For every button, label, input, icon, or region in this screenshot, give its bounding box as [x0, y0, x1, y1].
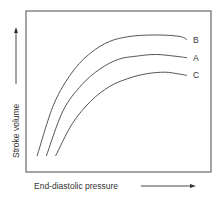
series-label-c: C [193, 70, 199, 80]
curves-group [37, 35, 187, 156]
series-labels-group: BAC [193, 35, 199, 80]
plot-frame [26, 11, 211, 172]
y-axis-arrow-head [14, 27, 18, 33]
y-axis-label: Stroke volume [11, 103, 21, 158]
x-axis-arrow-head [190, 184, 196, 188]
series-label-a: A [193, 53, 199, 63]
chart: BAC Stroke volume End-diastolic pressure [0, 0, 221, 200]
curve-b [37, 35, 187, 156]
x-axis-label: End-diastolic pressure [34, 181, 118, 191]
curve-c [56, 72, 187, 156]
x-axis-label-group: End-diastolic pressure [34, 181, 196, 191]
curve-a [46, 54, 187, 155]
series-label-b: B [193, 35, 199, 45]
y-axis-label-group: Stroke volume [11, 27, 21, 158]
